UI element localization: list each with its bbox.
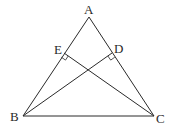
right-angle-mark-d bbox=[108, 56, 115, 60]
label-d: D bbox=[114, 41, 123, 56]
segment-ce bbox=[64, 53, 154, 116]
segment-ab bbox=[23, 17, 89, 116]
label-a: A bbox=[84, 2, 94, 17]
label-e: E bbox=[54, 42, 62, 57]
label-b: B bbox=[10, 109, 19, 124]
segment-bd bbox=[23, 53, 112, 116]
geometry-diagram: A B C D E bbox=[0, 0, 178, 132]
segment-ac bbox=[89, 17, 154, 116]
label-c: C bbox=[156, 111, 165, 126]
